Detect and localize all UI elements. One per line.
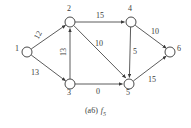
node-label-5: 5 <box>126 89 130 97</box>
node-1[interactable] <box>22 47 32 57</box>
caption-index: (a6) <box>85 106 98 115</box>
caption-subscript: 5 <box>103 111 106 117</box>
edges-group <box>31 22 166 84</box>
figure-container: 1 2 3 4 5 6 12 13 13 15 10 0 5 10 15 (a6… <box>0 0 191 128</box>
edge-label-2-5: 10 <box>95 40 103 48</box>
node-label-1: 1 <box>15 45 19 53</box>
edge-label-1-3: 13 <box>31 69 39 77</box>
node-6[interactable] <box>165 47 175 57</box>
node-label-3: 3 <box>67 89 71 97</box>
edge-label-4-6: 10 <box>151 28 159 36</box>
node-label-6: 6 <box>177 45 181 53</box>
edge-label-4-5: 5 <box>133 48 137 56</box>
edge-4-to-5 <box>129 27 130 78</box>
edge-label-2-4: 15 <box>96 12 104 20</box>
node-2[interactable] <box>65 17 75 27</box>
node-label-4: 4 <box>128 5 132 13</box>
node-4[interactable] <box>126 17 136 27</box>
edge-label-3-5: 0 <box>96 88 100 96</box>
node-label-2: 2 <box>67 5 71 13</box>
edge-label-5-6: 15 <box>148 76 156 84</box>
figure-caption: (a6)f5 <box>0 106 191 117</box>
edge-label-3-2: 13 <box>60 48 68 56</box>
edge-2-to-5 <box>74 25 126 78</box>
